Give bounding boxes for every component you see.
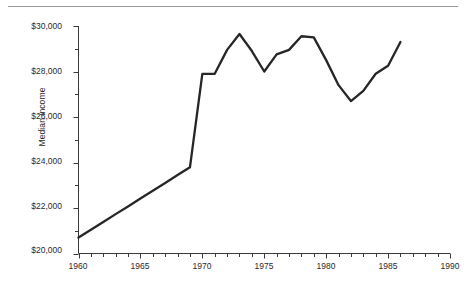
chart-figure: Median income $30,000 $28,000 $26,000 $2…	[0, 0, 466, 289]
data-line-median-income	[79, 34, 401, 238]
axis-lines	[79, 26, 451, 254]
y-minor-ticks	[75, 50, 79, 232]
plot-area	[0, 0, 466, 289]
x-major-ticks	[80, 254, 451, 259]
